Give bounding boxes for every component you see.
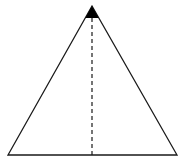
triangle-diagram <box>0 0 188 163</box>
apex-marker <box>85 6 99 18</box>
